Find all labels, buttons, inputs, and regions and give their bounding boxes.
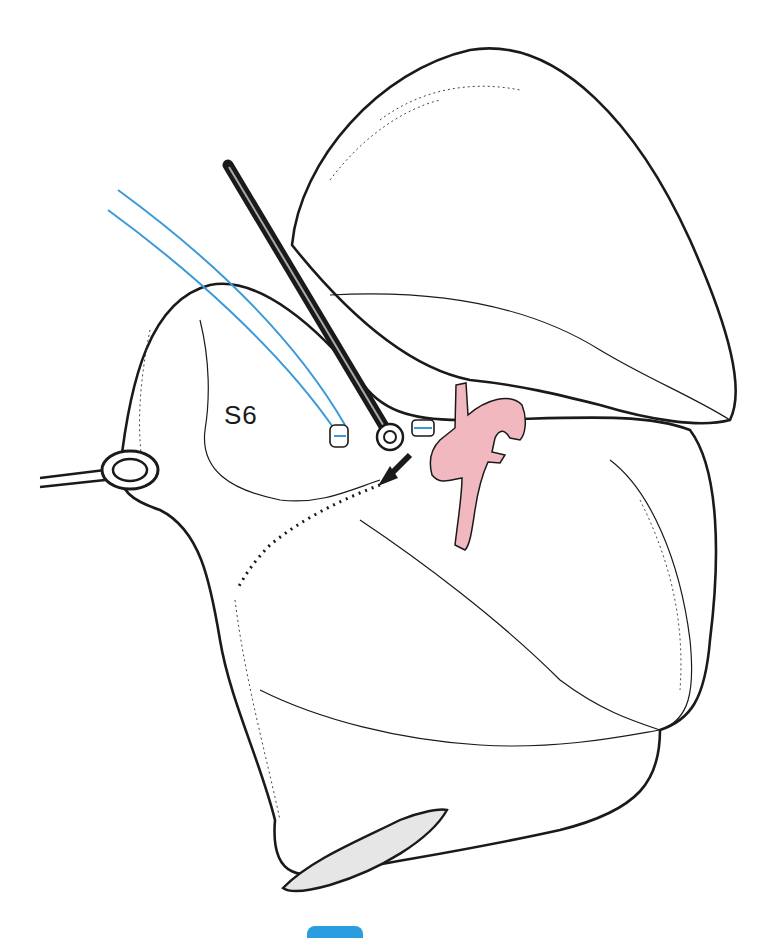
blue-tab — [307, 926, 363, 938]
segment-label-s6: S6 — [224, 400, 258, 431]
upper-lobe — [292, 48, 736, 423]
ring-forceps — [40, 451, 158, 489]
